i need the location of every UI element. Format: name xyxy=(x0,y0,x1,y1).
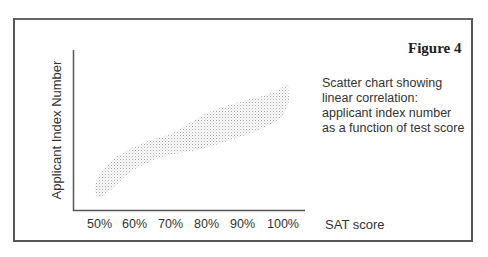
description-line: as a function of test score xyxy=(322,121,472,136)
x-tick-label: 50% xyxy=(87,217,112,231)
figure-description: Scatter chart showing linear correlation… xyxy=(322,76,472,136)
x-tick-label: 100% xyxy=(267,217,299,231)
x-tick-label: 80% xyxy=(194,217,219,231)
description-line: linear correlation: xyxy=(322,91,472,106)
figure-title: Figure 4 xyxy=(408,40,461,57)
scatter-point-cloud xyxy=(95,84,289,197)
description-line: Scatter chart showing xyxy=(322,76,472,91)
y-axis-label: Applicant Index Number xyxy=(49,61,64,200)
x-axis-label: SAT score xyxy=(325,217,384,232)
x-tick-label: 90% xyxy=(230,217,255,231)
description-line: applicant index number xyxy=(322,106,472,121)
x-tick-label: 60% xyxy=(122,217,147,231)
x-tick-label: 70% xyxy=(158,217,183,231)
